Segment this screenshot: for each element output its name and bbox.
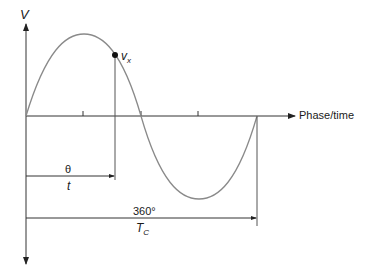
x-axis-label: Phase/time [299, 110, 354, 121]
vx-point [112, 52, 118, 58]
vx-label: vx [121, 50, 131, 65]
tc-label-sub: C [143, 228, 149, 237]
y-axis-label: V [20, 8, 29, 21]
vx-label-sub: x [127, 56, 131, 65]
sine-wave-diagram [0, 0, 368, 276]
t-label: t [67, 180, 70, 192]
theta-label: θ [65, 164, 71, 175]
period-phase-label: 360° [133, 206, 156, 217]
period-time-label: TC [136, 222, 149, 237]
